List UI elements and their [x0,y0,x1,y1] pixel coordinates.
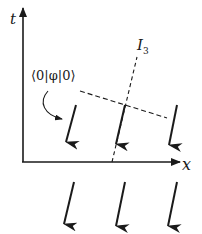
isospin-axis-label: I3 [136,36,149,56]
t-axis-label: t [10,10,17,28]
vev-pointer-arrow [43,91,62,119]
spin-arrow [64,182,74,224]
spin-arrow [116,182,125,226]
isospin-axis-subscript: 3 [143,46,149,56]
spin-arrow [169,105,177,145]
spin-arrow [66,105,76,142]
diagram-canvas: t x I3 ⟨0|φ|0⟩ [0,0,202,234]
spin-row-upper [66,105,177,145]
vev-label: ⟨0|φ|0⟩ [31,68,76,83]
x-axis-label: x [182,155,191,174]
spin-row-lower [64,182,177,226]
spin-arrow [116,105,125,144]
spin-arrow [168,182,177,226]
